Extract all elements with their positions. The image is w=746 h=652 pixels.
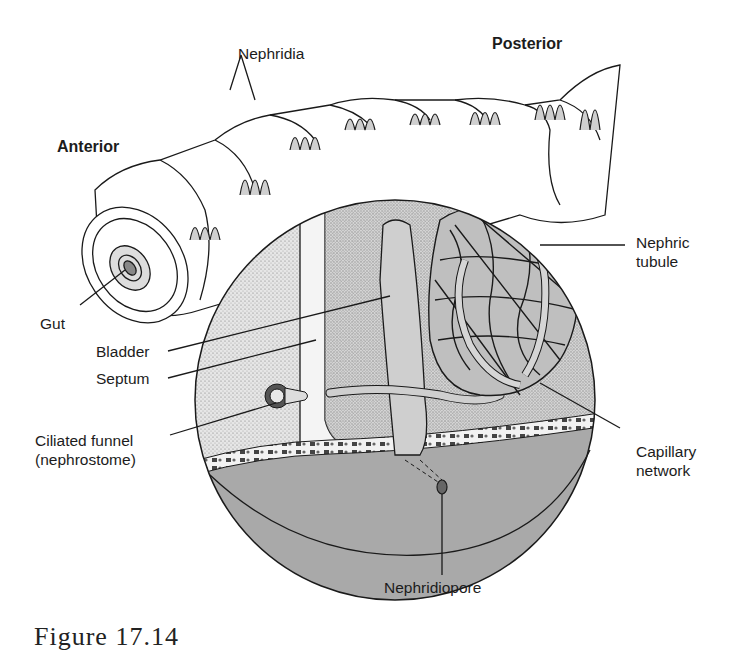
label-nephridiopore: Nephridiopore (384, 578, 481, 597)
label-bladder: Bladder (96, 342, 149, 361)
nephridiopore-opening (437, 480, 447, 494)
label-ciliated-funnel-2: (nephrostome) (35, 450, 136, 469)
label-nephric-tubule-1: Nephric (636, 233, 689, 252)
label-capillary-network-1: Capillary (636, 442, 696, 461)
label-nephric-tubule-2: tubule (636, 252, 678, 271)
label-capillary-network-2: network (636, 461, 690, 480)
label-anterior: Anterior (57, 137, 119, 156)
figure-caption: Figure 17.14 (34, 622, 179, 652)
label-posterior: Posterior (492, 34, 562, 53)
label-septum: Septum (96, 369, 149, 388)
label-ciliated-funnel-1: Ciliated funnel (35, 431, 133, 450)
label-nephridia: Nephridia (238, 44, 304, 63)
label-gut: Gut (40, 314, 65, 333)
